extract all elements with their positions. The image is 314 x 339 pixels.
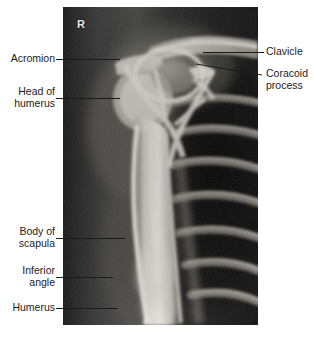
xray-image: R	[63, 7, 258, 325]
label-inferior-angle-line2: angle	[29, 276, 55, 288]
label-body-of-scapula-line2: scapula	[19, 237, 55, 249]
label-acromion: Acromion	[11, 53, 55, 65]
label-inferior-angle: Inferiorangle	[22, 265, 55, 288]
label-coracoid-process-line1: Coracoid	[266, 67, 308, 79]
laterality-marker-r: R	[77, 19, 85, 30]
label-head-of-humerus-line2: humerus	[14, 97, 55, 109]
label-body-of-scapula-line1: Body of	[19, 225, 55, 237]
label-head-of-humerus: Head ofhumerus	[14, 86, 55, 109]
label-inferior-angle-line1: Inferior	[22, 264, 55, 276]
label-coracoid-process: Coracoidprocess	[266, 68, 308, 91]
label-head-of-humerus-line1: Head of	[18, 85, 55, 97]
radiograph-figure: R Acromion Head ofhumerus Body ofscapula…	[0, 0, 314, 339]
label-body-of-scapula: Body ofscapula	[19, 226, 55, 249]
label-humerus: Humerus	[12, 302, 55, 314]
label-clavicle: Clavicle	[266, 46, 303, 58]
label-coracoid-process-line2: process	[266, 79, 303, 91]
